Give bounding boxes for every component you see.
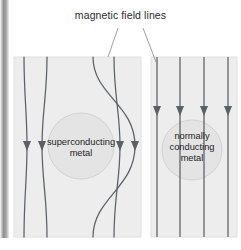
superconductor-label: superconducting metal bbox=[11, 137, 151, 159]
leader-line-left bbox=[108, 28, 118, 57]
field-line-diagram bbox=[0, 0, 241, 250]
normal-conductor-label: normally conducting metal bbox=[157, 131, 227, 165]
superconductor-label-line-2: metal bbox=[11, 148, 151, 159]
superconductor-label-line-1: superconducting bbox=[11, 137, 151, 148]
figure-canvas: magnetic field lines bbox=[0, 0, 241, 250]
normal-conductor-label-line-3: metal bbox=[157, 153, 227, 164]
normal-conductor-label-line-1: normally bbox=[157, 131, 227, 142]
normal-conductor-label-line-2: conducting bbox=[157, 142, 227, 153]
leader-line-right bbox=[143, 28, 156, 62]
